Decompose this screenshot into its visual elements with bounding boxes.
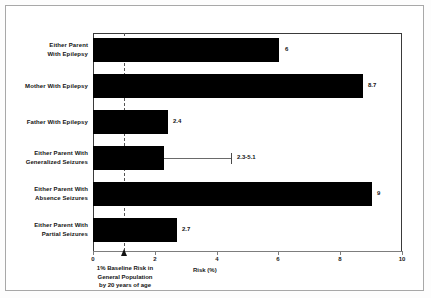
bar-either-parent-generalized-seizures <box>93 146 164 170</box>
range-annotation-label: 2.3-5.1 <box>237 154 256 160</box>
bar-category-label: Either Parent With Generalized Seizures <box>0 149 88 166</box>
x-tick-label-10: 10 <box>399 256 406 262</box>
bar-value-label: 2.4 <box>173 118 181 124</box>
x-tick-label-2: 2 <box>153 256 156 262</box>
chart-figure: Either Parent With Epilepsy 6 Mother Wit… <box>0 0 431 298</box>
x-tick-label-0: 0 <box>91 256 94 262</box>
x-tick-6 <box>278 251 279 255</box>
x-axis-title: Risk (%) <box>193 267 217 273</box>
bar-value-label: 8.7 <box>368 82 376 88</box>
x-tick-8 <box>340 251 341 255</box>
bar-either-parent-absence-seizures <box>93 182 372 206</box>
x-tick-4 <box>217 251 218 255</box>
x-tick-2 <box>155 251 156 255</box>
bar-father-with-epilepsy <box>93 110 168 134</box>
range-whisker-line <box>164 158 231 159</box>
x-tick-label-8: 8 <box>338 256 341 262</box>
bar-category-label: Either Parent With Epilepsy <box>0 41 88 58</box>
baseline-arrow-icon <box>121 249 127 256</box>
bar-category-label-line1: Either Parent With <box>34 150 88 156</box>
x-tick-label-6: 6 <box>276 256 279 262</box>
bar-row: Mother With Epilepsy 8.7 <box>0 74 431 98</box>
baseline-annotation-line2: General Population <box>97 274 152 280</box>
bar-category-label-line1: Father With Epilepsy <box>27 119 88 125</box>
bar-row: Either Parent With Partial Seizures 2.7 <box>0 218 431 242</box>
bar-row: Either Parent With Generalized Seizures … <box>0 146 431 170</box>
bar-mother-with-epilepsy <box>93 74 363 98</box>
bar-category-label-line1: Either Parent With <box>34 222 88 228</box>
bar-category-label-line1: Either Parent <box>49 42 88 48</box>
range-whisker-cap <box>231 153 232 164</box>
bar-row: Either Parent With Absence Seizures 9 <box>0 182 431 206</box>
bar-category-label: Either Parent With Partial Seizures <box>0 221 88 238</box>
bar-category-label-line1: Either Parent With <box>34 186 88 192</box>
bar-either-parent-with-epilepsy <box>93 38 279 62</box>
bar-value-label: 2.7 <box>182 226 190 232</box>
bar-either-parent-partial-seizures <box>93 218 177 242</box>
bar-category-label-line2: With Epilepsy <box>47 51 88 57</box>
bar-category-label: Mother With Epilepsy <box>0 82 88 91</box>
bar-value-label: 9 <box>377 190 380 196</box>
bar-row: Either Parent With Epilepsy 6 <box>0 38 431 62</box>
bar-category-label: Either Parent With Absence Seizures <box>0 185 88 202</box>
bar-category-label-line2: Generalized Seizures <box>26 159 88 165</box>
baseline-annotation-line1: 1% Baseline Risk in <box>97 265 153 271</box>
baseline-annotation-line3: by 20 years of age <box>99 282 151 288</box>
bar-row: Father With Epilepsy 2.4 <box>0 110 431 134</box>
bar-category-label-line1: Mother With Epilepsy <box>25 83 88 89</box>
baseline-annotation: 1% Baseline Risk in General Population b… <box>64 264 186 290</box>
x-tick-0 <box>93 251 94 255</box>
x-tick-10 <box>402 251 403 255</box>
x-axis-line <box>93 251 402 252</box>
bar-category-label: Father With Epilepsy <box>0 118 88 127</box>
bar-value-label: 6 <box>285 46 288 52</box>
bar-category-label-line2: Absence Seizures <box>35 195 88 201</box>
bar-category-label-line2: Partial Seizures <box>42 231 88 237</box>
x-tick-label-4: 4 <box>215 256 218 262</box>
